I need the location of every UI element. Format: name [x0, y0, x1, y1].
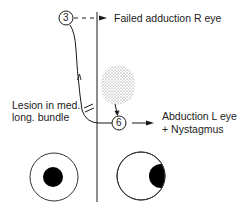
node-6-label: 6	[116, 117, 122, 129]
right-pupil	[149, 164, 173, 188]
lesion-label-line2: long. bundle	[12, 111, 69, 123]
abduction-label-line2: + Nystagmus	[162, 123, 224, 135]
lesion-label-line1: Lesion in med.	[12, 99, 80, 111]
abduction-label-line1: Abduction L eye	[162, 110, 237, 122]
left-pupil	[43, 167, 63, 187]
lesion-mark	[85, 108, 94, 112]
arrow-right-icon	[146, 121, 154, 126]
node-3-label: 3	[63, 12, 69, 24]
arrow-right-icon	[99, 16, 107, 21]
failed-adduction-label: Failed adduction R eye	[114, 12, 221, 24]
left-eye	[30, 153, 78, 201]
stippled-region	[101, 65, 135, 104]
right-eye	[117, 152, 173, 200]
lesion-mark	[84, 104, 93, 108]
arrow-down-icon	[115, 111, 120, 117]
